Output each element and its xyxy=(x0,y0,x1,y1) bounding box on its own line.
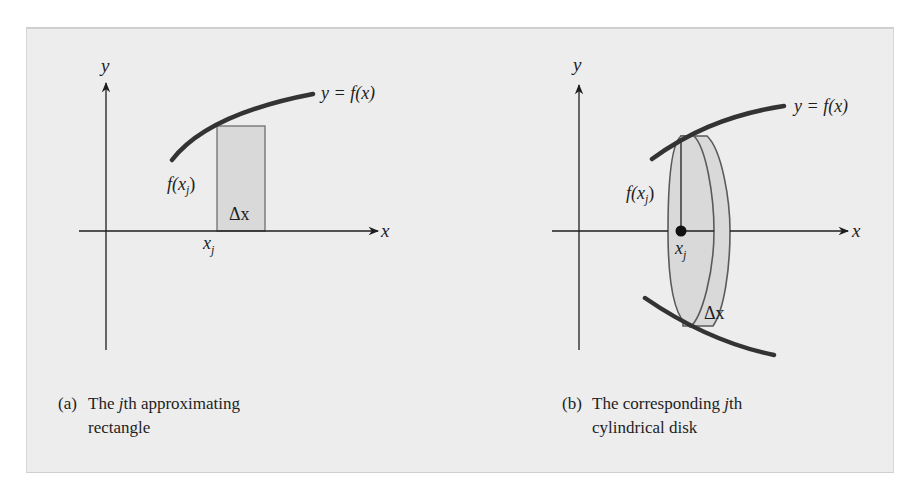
caption-a: (a)The jth approximating rectangle xyxy=(58,392,240,440)
panel-b-diagram: y x y = f(x) f(xj) Δx xj xyxy=(552,54,861,355)
curve-label: y = f(x) xyxy=(319,83,375,104)
caption-b-line2: cylindrical disk xyxy=(562,416,742,440)
x-axis-label: x xyxy=(851,220,861,241)
function-curve xyxy=(652,106,784,159)
height-label: f(xj) xyxy=(626,183,654,206)
x-axis-label: x xyxy=(380,220,390,241)
height-label: f(xj) xyxy=(167,174,195,197)
width-label: Δx xyxy=(704,303,725,323)
caption-b: (b)The corresponding jth cylindrical dis… xyxy=(562,392,742,440)
caption-a-tag: (a) xyxy=(58,392,88,416)
caption-b-line1-pre: The corresponding xyxy=(592,394,724,413)
point-label: xj xyxy=(202,233,215,257)
point-xj-dot xyxy=(676,226,687,237)
width-label: Δx xyxy=(229,204,250,224)
curve-label: y = f(x) xyxy=(792,96,848,117)
caption-a-line1-post: th approximating xyxy=(123,394,240,413)
caption-b-line1-post: th xyxy=(729,394,742,413)
caption-a-line2: rectangle xyxy=(58,416,240,440)
panel-a-diagram: y x y = f(x) f(xj) Δx xj xyxy=(79,55,390,350)
caption-a-line1-pre: The xyxy=(88,394,119,413)
caption-b-tag: (b) xyxy=(562,392,592,416)
y-axis-label: y xyxy=(571,54,582,75)
y-axis-label: y xyxy=(99,55,110,76)
